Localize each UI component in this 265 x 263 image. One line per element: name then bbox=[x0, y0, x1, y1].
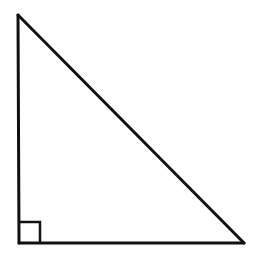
triangle bbox=[18, 15, 244, 243]
right-angle-marker bbox=[19, 222, 40, 243]
right-triangle-diagram bbox=[0, 0, 265, 263]
hypotenuse bbox=[18, 15, 244, 243]
vertical-leg bbox=[18, 15, 19, 243]
